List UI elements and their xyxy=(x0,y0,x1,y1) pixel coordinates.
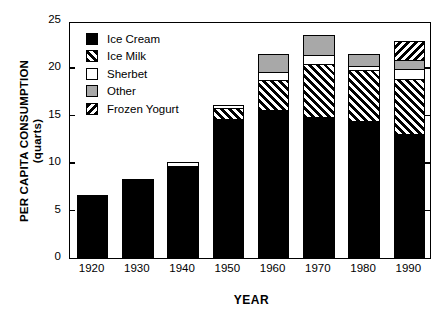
y-tick-label: 10 xyxy=(48,155,61,167)
x-tick-label-1920: 1920 xyxy=(69,262,114,274)
x-tick-label-1930: 1930 xyxy=(114,262,159,274)
legend-swatch-yogurt-icon xyxy=(86,103,98,115)
legend-label-yogurt: Frozen Yogurt xyxy=(107,103,179,115)
bar-segment-icecream-1930[interactable] xyxy=(122,179,154,258)
bar-1940[interactable] xyxy=(167,162,199,258)
y-tick-label: 20 xyxy=(48,60,61,72)
bar-segment-icecream-1940[interactable] xyxy=(167,166,199,258)
bar-1950[interactable] xyxy=(213,105,245,258)
bar-segment-other-1980[interactable] xyxy=(348,54,380,65)
legend-item-yogurt[interactable]: Frozen Yogurt xyxy=(86,100,211,118)
x-tick-label-1960: 1960 xyxy=(250,262,295,274)
bar-segment-other-1970[interactable] xyxy=(303,35,335,55)
legend-swatch-icecream-icon xyxy=(86,33,98,45)
y-tick-label: 0 xyxy=(55,250,61,262)
stacked-bar-chart: PER CAPITA CONSUMPTION(quarts) 051015202… xyxy=(0,0,443,319)
y-tick-label: 25 xyxy=(48,13,61,25)
y-axis-title-line1: PER CAPITA CONSUMPTION xyxy=(18,60,30,222)
bar-segment-sherbet-1960[interactable] xyxy=(258,72,290,80)
bar-segment-icecream-1950[interactable] xyxy=(213,119,245,258)
bar-segment-icemilk-1960[interactable] xyxy=(258,80,290,110)
bar-segment-yogurt-1990[interactable] xyxy=(394,41,426,60)
legend-label-sherbet: Sherbet xyxy=(107,68,147,80)
bar-segment-icemilk-1980[interactable] xyxy=(348,70,380,120)
bar-segment-sherbet-1940[interactable] xyxy=(167,162,199,166)
x-axis-ticks: 19201930194019501960197019801990 xyxy=(69,262,431,278)
bar-segment-other-1990[interactable] xyxy=(394,60,426,69)
legend: Ice CreamIce MilkSherbetOtherFrozen Yogu… xyxy=(86,30,211,118)
bar-segment-sherbet-1950[interactable] xyxy=(213,105,245,108)
legend-label-other: Other xyxy=(107,85,136,97)
bar-segment-sherbet-1990[interactable] xyxy=(394,69,426,78)
bar-segment-icemilk-1970[interactable] xyxy=(303,64,335,117)
legend-swatch-sherbet-icon xyxy=(86,68,98,80)
bar-segment-icecream-1920[interactable] xyxy=(77,195,109,258)
bar-1990[interactable] xyxy=(394,41,426,258)
x-tick-label-1940: 1940 xyxy=(160,262,205,274)
x-tick-label-1990: 1990 xyxy=(386,262,431,274)
bar-segment-other-1960[interactable] xyxy=(258,54,290,72)
legend-item-icemilk[interactable]: Ice Milk xyxy=(86,48,211,66)
x-tick-label-1970: 1970 xyxy=(295,262,340,274)
legend-label-icemilk: Ice Milk xyxy=(107,50,146,62)
bar-1920[interactable] xyxy=(77,195,109,258)
x-axis-title: YEAR xyxy=(60,293,443,307)
legend-item-icecream[interactable]: Ice Cream xyxy=(86,30,211,48)
y-tick-label: 5 xyxy=(55,203,61,215)
legend-swatch-other-icon xyxy=(86,85,98,97)
x-tick-label-1980: 1980 xyxy=(341,262,386,274)
bar-segment-icemilk-1990[interactable] xyxy=(394,79,426,134)
bar-1970[interactable] xyxy=(303,36,335,258)
legend-label-icecream: Ice Cream xyxy=(107,33,160,45)
bar-1960[interactable] xyxy=(258,54,290,258)
legend-item-sherbet[interactable]: Sherbet xyxy=(86,65,211,83)
y-tick-label: 15 xyxy=(48,108,61,120)
bar-segment-icecream-1990[interactable] xyxy=(394,134,426,258)
legend-item-other[interactable]: Other xyxy=(86,83,211,101)
bar-segment-icecream-1960[interactable] xyxy=(258,110,290,258)
y-axis-title: PER CAPITA CONSUMPTION(quarts) xyxy=(18,31,44,251)
bar-segment-icecream-1970[interactable] xyxy=(303,117,335,258)
x-tick-label-1950: 1950 xyxy=(205,262,250,274)
bar-1930[interactable] xyxy=(122,179,154,258)
bar-1980[interactable] xyxy=(348,54,380,258)
bar-segment-icemilk-1950[interactable] xyxy=(213,108,245,118)
y-axis-title-line2: (quarts) xyxy=(31,119,43,163)
bar-segment-sherbet-1980[interactable] xyxy=(348,66,380,71)
bar-segment-icecream-1980[interactable] xyxy=(348,121,380,258)
bar-segment-sherbet-1970[interactable] xyxy=(303,55,335,64)
legend-swatch-icemilk-icon xyxy=(86,50,98,62)
